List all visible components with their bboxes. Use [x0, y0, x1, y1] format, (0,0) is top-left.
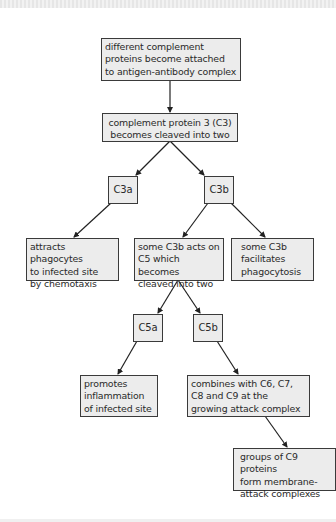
node-c3-cleavage: complement protein 3 (C3) becomes cleave…: [102, 113, 238, 142]
node-c3a: C3a: [108, 176, 138, 204]
node-chemotaxis: attracts phagocytes to infected site by …: [26, 238, 119, 281]
node-c5b: C5b: [193, 314, 223, 342]
arrow-c3b-to-c5-cleave: [183, 203, 208, 237]
node-c5-cleavage: some C3b acts on C5 which becomes cleave…: [134, 238, 224, 281]
arrow-c5b-to-combines: [217, 341, 238, 374]
arrow-c3b-to-phagocytosis: [231, 203, 265, 237]
arrow-c5a-to-inflammation: [118, 341, 137, 374]
arrow-c3-to-c3a: [136, 141, 170, 175]
node-c3b: C3b: [204, 176, 234, 204]
complement-cascade-diagram: different complement proteins become att…: [0, 0, 336, 522]
arrow-c3-to-c3b: [170, 141, 204, 175]
arrow-combines-to-mac: [265, 416, 287, 447]
node-membrane-attack-complex: groups of C9 proteins form membrane- att…: [233, 448, 336, 491]
node-c5a: C5a: [133, 314, 163, 342]
arrow-c3a-to-chemotaxis: [74, 203, 111, 237]
node-inflammation: promotes inflammation of infected site: [80, 375, 158, 417]
node-antigen-antibody-attachment: different complement proteins become att…: [101, 38, 241, 81]
node-phagocytosis: some C3b facilitates phagocytosis: [231, 238, 314, 281]
node-combines-c6-c9: combines with C6, C7, C8 and C9 at the g…: [187, 375, 310, 417]
